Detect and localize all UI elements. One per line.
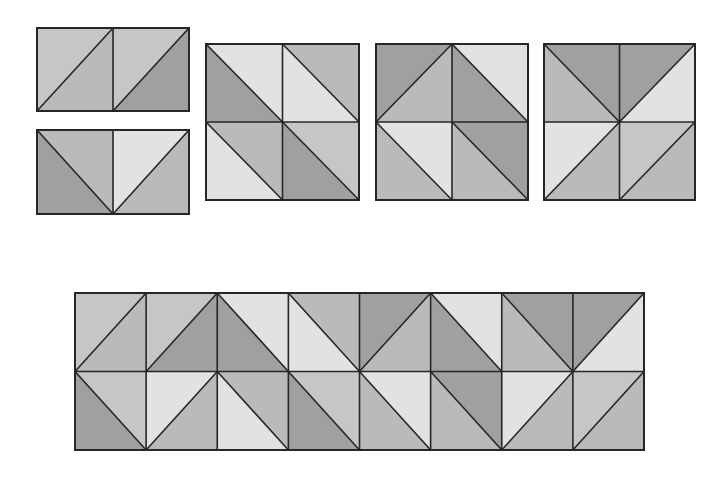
two-patch-unit-b: [37, 130, 189, 214]
combined-strip-graphic: [75, 293, 644, 450]
four-patch-block-1: [206, 44, 359, 200]
two-patch-unit-a-graphic: [37, 28, 189, 111]
two-patch-unit-a: [37, 28, 189, 111]
four-patch-block-3: [544, 44, 695, 200]
four-patch-block-2-graphic: [376, 44, 528, 200]
combined-strip: [75, 293, 644, 450]
two-patch-unit-b-graphic: [37, 130, 189, 214]
four-patch-block-3-graphic: [544, 44, 695, 200]
four-patch-block-2: [376, 44, 528, 200]
four-patch-block-1-graphic: [206, 44, 359, 200]
quilt-diagram-canvas: [0, 0, 721, 480]
